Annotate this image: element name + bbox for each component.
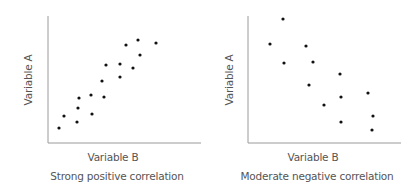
data-point <box>136 38 139 41</box>
chart-caption: Strong positive correlation <box>50 170 183 182</box>
negative-correlation-plot <box>248 16 401 143</box>
data-point <box>104 63 107 66</box>
x-axis-label: Variable B <box>87 151 138 163</box>
data-point <box>370 128 373 131</box>
data-point <box>131 66 134 69</box>
data-point <box>77 96 80 99</box>
axes <box>248 16 401 143</box>
data-point <box>124 43 127 46</box>
scatter-plots-canvas <box>0 0 414 194</box>
data-point <box>118 62 121 65</box>
data-point <box>281 17 284 20</box>
data-point <box>322 103 325 106</box>
x-axis-label: Variable B <box>287 151 338 163</box>
data-point <box>339 120 342 123</box>
data-point <box>311 60 314 63</box>
data-point <box>307 83 310 86</box>
data-point <box>102 95 105 98</box>
data-point <box>76 106 79 109</box>
data-point <box>366 91 369 94</box>
y-axis-label: Variable A <box>223 54 235 105</box>
data-point <box>62 114 65 117</box>
data-point <box>371 114 374 117</box>
data-point <box>100 79 103 82</box>
positive-correlation-plot <box>48 16 201 143</box>
data-point <box>154 41 157 44</box>
data-point <box>57 126 60 129</box>
data-point <box>304 44 307 47</box>
y-axis-label: Variable A <box>22 54 34 105</box>
chart-caption: Moderate negative correlation <box>240 170 393 182</box>
data-point <box>75 120 78 123</box>
data-point <box>338 72 341 75</box>
data-point <box>282 61 285 64</box>
data-point <box>89 93 92 96</box>
data-point <box>138 53 141 56</box>
data-point <box>268 42 271 45</box>
axes <box>48 16 201 143</box>
data-point <box>339 95 342 98</box>
data-point <box>118 75 121 78</box>
data-point <box>90 112 93 115</box>
